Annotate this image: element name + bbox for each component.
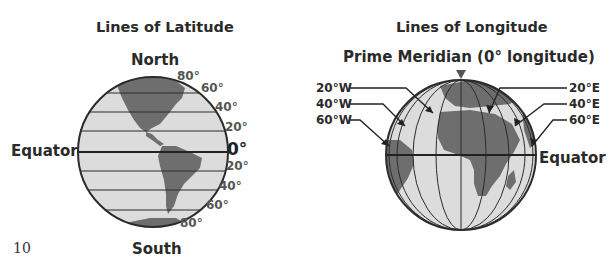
lat-0-label: 0° [227, 139, 247, 159]
lat-80n-label: 80° [177, 69, 200, 83]
equator-label-right: Equator [539, 149, 606, 167]
prime-meridian-arrow-icon [456, 70, 466, 79]
lat-40n-label: 40° [215, 100, 238, 114]
longitude-title: Lines of Longitude [396, 19, 548, 35]
lat-20s-label: 20° [226, 159, 249, 173]
page-number: 10 [13, 240, 31, 256]
lat-60s-label: 60° [206, 198, 229, 212]
prime-meridian-label: Prime Meridian (0° longitude) [343, 48, 595, 66]
north-label: North [131, 51, 179, 69]
lat-40s-label: 40° [219, 179, 242, 193]
lon-20e-label: 20°E [569, 81, 600, 95]
lon-40w-label: 40°W [316, 97, 352, 111]
lon-20w-label: 20°W [316, 81, 352, 95]
lat-60n-label: 60° [201, 81, 224, 95]
longitude-globe [349, 70, 567, 230]
globes-illustration [0, 0, 616, 264]
latitude-title: Lines of Latitude [96, 19, 234, 35]
south-label: South [132, 240, 182, 258]
lon-40e-label: 40°E [569, 97, 600, 111]
equator-label-left: Equator [11, 142, 78, 160]
lat-80s-label: 80° [180, 216, 203, 230]
lat-20n-label: 20° [225, 120, 248, 134]
lon-60w-label: 60°W [316, 113, 352, 127]
lon-60e-label: 60°E [569, 113, 600, 127]
